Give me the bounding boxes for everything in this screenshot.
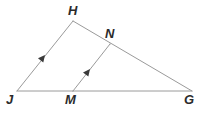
segment-jh [17,21,73,91]
vertex-label-m: M [65,93,76,106]
segment-hg [73,21,192,91]
vertex-label-n: N [105,27,114,40]
vertex-label-h: H [68,4,77,17]
vertex-dot-n [109,43,110,44]
geometry-figure: J H G M N [0,0,209,114]
segment-mn [73,44,110,91]
vertex-label-j: J [6,93,13,106]
geometry-canvas [0,0,209,114]
vertex-label-g: G [184,93,194,106]
